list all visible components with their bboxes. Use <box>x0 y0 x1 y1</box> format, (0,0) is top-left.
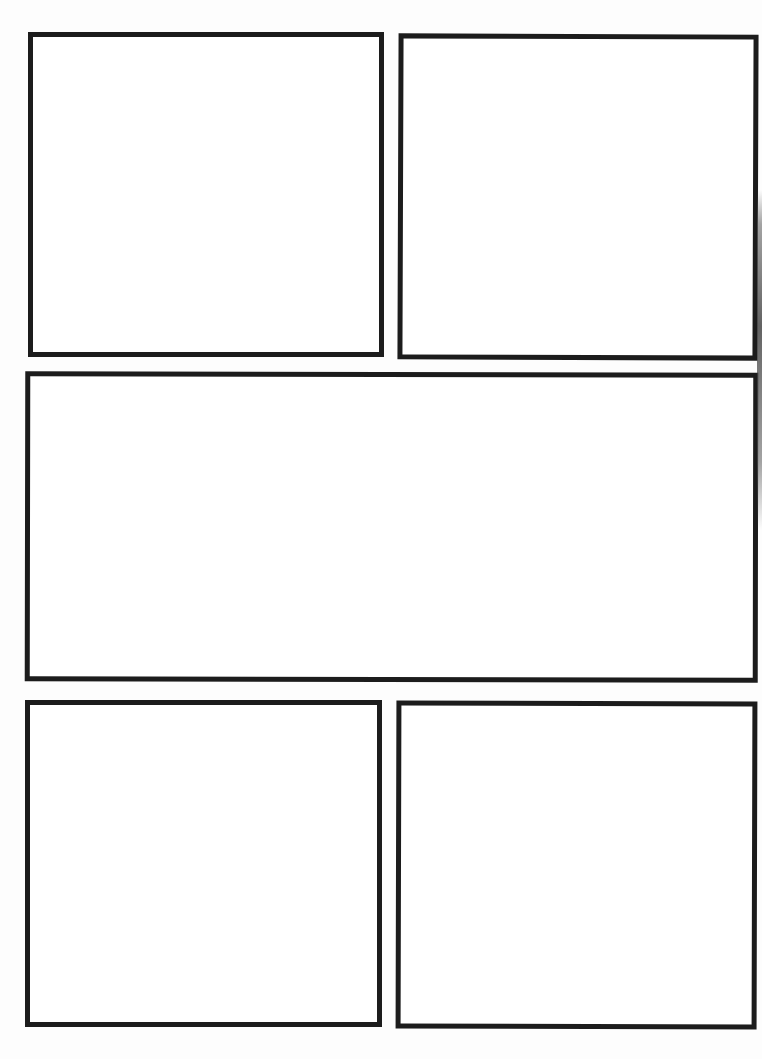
panel-top-left <box>28 32 384 357</box>
panel-bottom-left <box>25 700 382 1027</box>
panel-top-right <box>397 33 758 360</box>
panel-bottom-right <box>396 701 758 1030</box>
scan-edge-shadow <box>757 190 762 530</box>
panel-middle-wide <box>25 371 759 682</box>
comic-page <box>0 0 762 1059</box>
